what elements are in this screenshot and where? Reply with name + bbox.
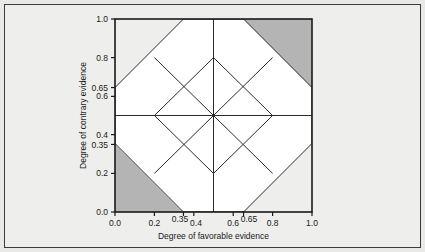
y-tick-label-7: 1.0 [96, 14, 108, 24]
x-axis-title: Degree of favorable evidence [158, 231, 269, 241]
x-tick-label-1: 0.2 [148, 218, 160, 228]
y-tick-label-3: 0.4 [96, 130, 108, 140]
chart-svg: 0.0 0.2 0.35 0.4 0.6 0.65 0.8 1.0 0.0 0.… [0, 0, 425, 252]
y-tick-label-2: 0.35 [91, 140, 108, 150]
y-axis-title: Degree of contrary evidence [78, 62, 88, 169]
x-tick-label-3: 0.4 [190, 218, 202, 228]
x-tick-label-7: 1.0 [306, 218, 318, 228]
x-tick-label-6: 0.8 [267, 218, 279, 228]
x-tick-label-2: 0.35 [172, 214, 189, 224]
y-tick-label-0: 0.0 [96, 207, 108, 217]
x-tick-label-5: 0.65 [241, 214, 258, 224]
x-tick-label-0: 0.0 [109, 218, 121, 228]
y-tick-label-6: 0.8 [96, 53, 108, 63]
x-tick-label-4: 0.6 [227, 218, 239, 228]
y-tick-label-5: 0.65 [91, 83, 108, 93]
y-tick-label-1: 0.2 [96, 168, 108, 178]
y-tick-label-4: 0.6 [96, 91, 108, 101]
figure-container: 0.0 0.2 0.35 0.4 0.6 0.65 0.8 1.0 0.0 0.… [0, 0, 425, 252]
